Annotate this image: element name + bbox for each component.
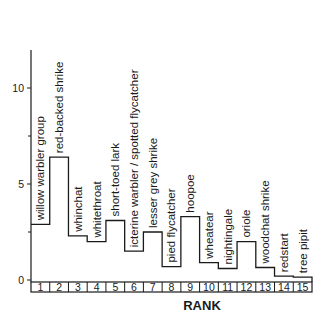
- x-axis-label: RANK: [183, 298, 221, 313]
- rank-axis-boxes: 123456789101112131415: [31, 281, 312, 293]
- species-label: short-toed lark: [109, 143, 121, 217]
- rank-label: 9: [187, 281, 193, 293]
- species-label: whitethroat: [91, 181, 103, 239]
- rank-label: 6: [131, 281, 137, 293]
- species-label: willow warbler group: [34, 116, 46, 221]
- y-tick-label: 5: [18, 178, 24, 190]
- rank-label: 1: [37, 281, 43, 293]
- species-labels: willow warbler groupred-backed shrikewhi…: [34, 62, 308, 273]
- species-label: hoopoe: [184, 174, 196, 212]
- rank-label: 13: [259, 281, 271, 293]
- species-label: icterine warbler / spotted flycatcher: [128, 69, 140, 247]
- species-label: red-backed shrike: [53, 62, 65, 153]
- species-label: lesser grey shrike: [147, 138, 159, 228]
- rank-label: 7: [150, 281, 156, 293]
- rank-label: 2: [56, 281, 62, 293]
- species-label: nightingale: [222, 209, 234, 265]
- rank-label: 12: [241, 281, 253, 293]
- species-label: pied flycatcher: [166, 188, 178, 262]
- y-tick-label: 10: [12, 82, 24, 94]
- species-label: oriole: [240, 209, 252, 237]
- species-label: tree pipit: [297, 228, 309, 273]
- rank-label: 8: [169, 281, 175, 293]
- rank-step-chart: 0510 willow warbler groupred-backed shri…: [0, 0, 331, 326]
- rank-label: 11: [222, 281, 233, 293]
- rank-label: 14: [278, 281, 290, 293]
- species-label: whinchat: [72, 186, 84, 233]
- y-axis: 0510: [12, 50, 31, 286]
- rank-label: 4: [94, 281, 100, 293]
- y-tick-label: 0: [18, 274, 24, 286]
- species-label: wheatear: [203, 211, 215, 259]
- rank-label: 15: [297, 281, 309, 293]
- rank-label: 10: [203, 281, 215, 293]
- rank-label: 3: [75, 281, 81, 293]
- species-label: redstart: [278, 232, 290, 272]
- species-label: woodchat shrike: [259, 180, 271, 264]
- rank-label: 5: [112, 281, 118, 293]
